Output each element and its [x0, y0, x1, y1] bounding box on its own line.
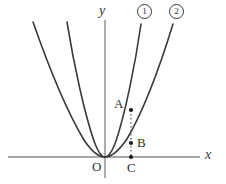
x-axis-label: x	[205, 148, 211, 162]
curve-2-tag-number: 2	[169, 4, 184, 19]
figure-canvas	[0, 0, 226, 184]
point-c-label: C	[127, 161, 136, 174]
curve-1-tag-number: 1	[137, 4, 152, 19]
parabola-curve-1	[67, 22, 141, 157]
parabola-curve-2	[33, 22, 173, 157]
math-figure: y x O 1 2 A B C	[0, 0, 226, 184]
curve-2-tag: 2	[169, 4, 184, 19]
point-b-marker	[129, 141, 133, 145]
curve-1-tag: 1	[137, 4, 152, 19]
point-a-marker	[129, 108, 133, 112]
origin-label: O	[92, 160, 101, 173]
point-b-label: B	[137, 136, 146, 149]
point-a-label: A	[114, 97, 123, 110]
point-c-marker	[129, 155, 133, 159]
y-axis-label: y	[99, 4, 105, 18]
